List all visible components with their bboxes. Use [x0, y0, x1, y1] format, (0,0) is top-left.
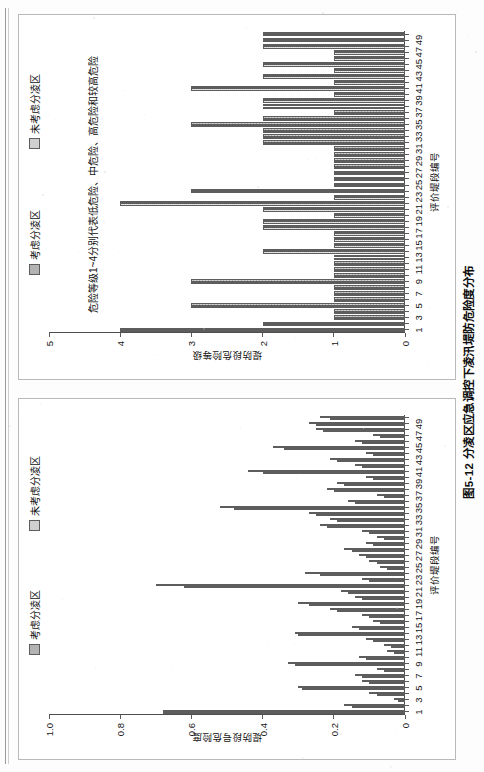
bar — [305, 572, 405, 574]
x-tick — [405, 544, 409, 545]
bar — [344, 548, 405, 550]
bar — [334, 185, 405, 187]
x-tick-label: 19 — [413, 216, 424, 227]
bar — [263, 64, 405, 66]
bar — [263, 225, 405, 227]
y-tick-label: 5 — [44, 341, 55, 346]
x-tick-label: 5 — [413, 685, 424, 690]
plot-area-risk-degree: 考虑分凌区 未考虑分凌区 00.20.40.60.81.013579111315… — [19, 399, 455, 759]
bar — [394, 698, 405, 700]
x-tick — [405, 418, 409, 419]
x-tick-label: 47 — [413, 431, 424, 442]
x-tick — [405, 502, 409, 503]
bar — [334, 58, 405, 60]
legend-label-not-considered: 未考虑分凌区 — [27, 456, 42, 516]
bar — [334, 82, 405, 84]
x-tick — [405, 191, 409, 192]
bar — [369, 560, 405, 562]
bar — [394, 652, 405, 654]
bar — [334, 195, 405, 197]
bar — [120, 328, 405, 330]
bar — [316, 514, 405, 516]
x-tick — [405, 508, 409, 509]
bar — [320, 524, 405, 526]
x-tick — [405, 442, 409, 443]
x-tick-label: 7 — [413, 291, 424, 296]
x-tick — [405, 478, 409, 479]
x-tick — [405, 154, 409, 155]
x-tick — [405, 454, 409, 455]
x-tick — [405, 275, 409, 276]
bar — [380, 622, 405, 624]
bar — [366, 476, 405, 478]
bar — [337, 482, 405, 484]
x-tick — [405, 52, 409, 53]
bar — [263, 137, 405, 139]
axes-risk-degree: 00.20.40.60.81.0135791113151719212325272… — [49, 415, 405, 715]
bar — [263, 134, 405, 136]
bar — [334, 167, 405, 169]
scan-speckle — [104, 171, 106, 173]
legend-swatch-not-considered — [29, 138, 40, 149]
bar — [334, 155, 405, 157]
x-axis-title-risk-level: 评价堤段编号 — [427, 152, 441, 212]
bar — [334, 158, 405, 160]
bar — [334, 173, 405, 175]
bar — [384, 538, 405, 540]
y-tick — [120, 333, 121, 337]
bar — [263, 38, 405, 40]
x-tick-label: 3 — [413, 697, 424, 702]
x-tick — [405, 556, 409, 557]
x-tick — [405, 197, 409, 198]
bar — [273, 446, 405, 448]
bar — [263, 116, 405, 118]
x-tick-label: 33 — [413, 515, 424, 526]
bar — [334, 316, 405, 318]
bar — [191, 282, 405, 284]
x-tick-label: 23 — [413, 192, 424, 203]
y-tick — [49, 715, 50, 719]
x-tick — [405, 76, 409, 77]
bar — [334, 68, 405, 70]
x-tick-label: 37 — [413, 491, 424, 502]
x-tick — [405, 269, 409, 270]
scan-speckle — [395, 729, 396, 730]
page-top-rule — [5, 8, 6, 764]
scan-speckle — [316, 158, 317, 159]
bar — [334, 213, 405, 215]
bar — [391, 646, 405, 648]
x-tick — [405, 209, 409, 210]
bar — [334, 110, 405, 112]
x-tick — [405, 160, 409, 161]
x-tick — [405, 287, 409, 288]
bar — [373, 478, 405, 480]
bar — [334, 237, 405, 239]
x-tick-label: 3 — [413, 315, 424, 320]
x-tick — [405, 448, 409, 449]
x-tick-label: 17 — [413, 611, 424, 622]
x-tick-label: 7 — [413, 673, 424, 678]
x-tick — [405, 106, 409, 107]
scan-speckle — [307, 159, 308, 160]
scan-speckle — [423, 611, 424, 612]
x-tick — [405, 166, 409, 167]
y-tick-label: 4 — [115, 341, 126, 346]
legend-label-considered: 考虑分凌区 — [27, 210, 42, 260]
x-tick — [405, 616, 409, 617]
scan-speckle — [77, 574, 78, 575]
bar — [369, 580, 405, 582]
scan-speckle — [172, 669, 173, 670]
scan-speckle — [421, 76, 422, 77]
bar — [373, 434, 405, 436]
x-tick — [405, 532, 409, 533]
bar — [263, 76, 405, 78]
x-tick — [405, 311, 409, 312]
x-tick — [405, 299, 409, 300]
bar — [191, 306, 405, 308]
x-tick — [405, 136, 409, 137]
x-tick-label: 39 — [413, 95, 424, 106]
scan-speckle — [340, 284, 341, 285]
bar — [263, 40, 405, 42]
scan-speckle — [195, 497, 196, 498]
x-tick — [405, 34, 409, 35]
